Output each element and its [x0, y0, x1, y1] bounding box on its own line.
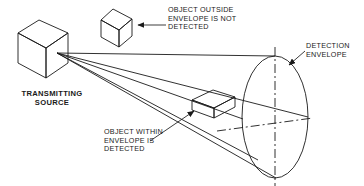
- outside-cube-left-face: [101, 20, 119, 47]
- inside-box-front-face: [192, 100, 214, 118]
- cone-ray-group: [57, 53, 308, 178]
- detection-envelope-diagram: OBJECT OUTSIDE ENVELOPE IS NOT DETECTED …: [0, 0, 364, 186]
- outside-cube-top-face: [101, 9, 132, 30]
- label-transmitting-source: TRANSMITTING SOURCE: [6, 90, 98, 107]
- transmitting-source-cube: [18, 20, 68, 78]
- undetected-object-cube: [101, 9, 132, 47]
- centerline-group: [217, 47, 313, 186]
- label-object-within: OBJECT WITHIN ENVELOPE IS DETECTED: [104, 128, 163, 154]
- cone-ray-right: [57, 53, 308, 117]
- label-detection-envelope: DETECTION ENVELOPE: [306, 42, 350, 59]
- cone-ray-bottom: [57, 53, 276, 178]
- outside-cube-right-face: [119, 19, 132, 47]
- cone-ray-top: [57, 53, 275, 56]
- source-cube-left-face: [18, 33, 46, 78]
- leader-line-group: [138, 25, 305, 141]
- centerline-horizontal: [217, 118, 313, 131]
- leader-detection-envelope: [289, 51, 305, 65]
- source-cube-top-face: [18, 20, 68, 48]
- cone-ray-near-left: [57, 53, 243, 119]
- label-object-outside: OBJECT OUTSIDE ENVELOPE IS NOT DETECTED: [168, 6, 236, 32]
